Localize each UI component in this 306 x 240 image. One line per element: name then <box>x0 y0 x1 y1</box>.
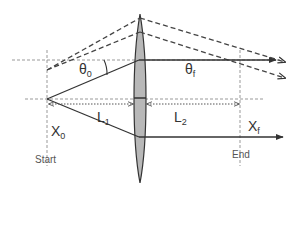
L1-base: L <box>97 109 105 125</box>
start-label: Start <box>35 155 56 165</box>
theta0-label: θ0 <box>79 62 92 79</box>
L2-label: L2 <box>174 110 187 127</box>
L2-sub: 2 <box>182 117 187 127</box>
thetaf-sub: f <box>193 69 196 79</box>
theta0-base: θ <box>79 61 87 77</box>
thetaf-base: θ <box>185 61 193 77</box>
theta0-sub: 0 <box>87 69 92 79</box>
end-label: End <box>232 150 250 160</box>
thetaf-label: θf <box>185 62 195 79</box>
X0-label: X0 <box>51 124 65 141</box>
theta0-angle-arc <box>104 60 107 75</box>
L2-base: L <box>174 109 182 125</box>
L1-sub: 1 <box>105 117 110 127</box>
X0-base: X <box>51 123 60 139</box>
Xf-base: X <box>248 118 257 134</box>
L1-label: L1 <box>97 110 110 127</box>
Xf-sub: f <box>257 126 260 136</box>
X0-sub: 0 <box>60 131 65 141</box>
Xf-label: Xf <box>248 119 260 136</box>
